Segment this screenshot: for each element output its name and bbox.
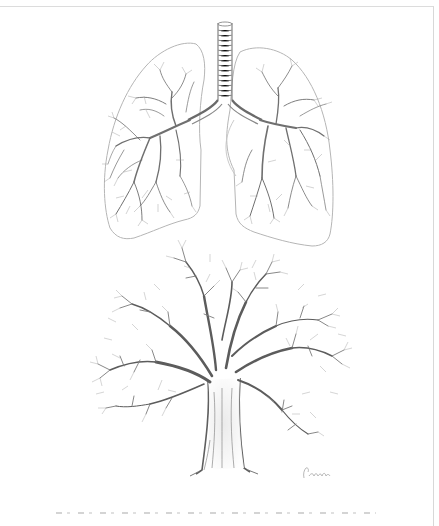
left-bronchial-tree — [108, 70, 194, 220]
right-lung-outline — [227, 48, 333, 246]
caption-text — [56, 510, 376, 518]
tree-drawing — [90, 240, 352, 476]
artist-signature — [304, 468, 330, 478]
left-lung-outline — [104, 43, 204, 239]
lungs-drawing — [102, 22, 333, 246]
trachea — [188, 22, 262, 124]
